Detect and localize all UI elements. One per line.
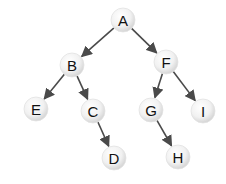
edge-F-G (155, 73, 163, 97)
node-C: C (81, 99, 105, 123)
node-B: B (60, 53, 84, 77)
node-E: E (24, 97, 48, 121)
node-A: A (111, 8, 135, 32)
edge-A-B (82, 28, 114, 56)
node-label: H (173, 149, 184, 166)
edge-C-D (98, 122, 109, 146)
node-label: A (118, 12, 128, 29)
tree-canvas: ABFECGIDH (0, 0, 226, 184)
edge-B-E (44, 74, 64, 99)
node-label: E (31, 101, 41, 118)
edge-A-F (132, 28, 157, 53)
node-label: F (161, 54, 170, 71)
edges-layer (44, 28, 195, 146)
node-I: I (191, 99, 215, 123)
node-label: B (67, 57, 77, 74)
node-F: F (154, 50, 178, 74)
node-G: G (139, 98, 163, 122)
tree-diagram: ABFECGIDH (0, 0, 226, 184)
edge-F-I (173, 72, 195, 101)
node-label: I (201, 103, 205, 120)
edge-G-H (157, 120, 172, 145)
edge-B-C (77, 76, 88, 99)
node-H: H (166, 145, 190, 169)
node-label: G (145, 102, 157, 119)
node-label: C (88, 103, 99, 120)
node-D: D (102, 146, 126, 170)
node-label: D (109, 150, 120, 167)
